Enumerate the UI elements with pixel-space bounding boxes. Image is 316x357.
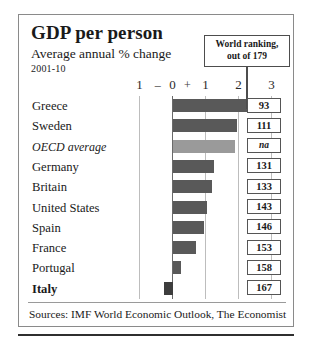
row-label: Portugal	[32, 259, 75, 278]
chart-row: Germany131	[19, 157, 295, 177]
chart-row: Italy167	[19, 279, 295, 299]
bar	[173, 119, 237, 132]
chart-subtitle: Average annual % change	[31, 46, 231, 62]
ranking-badge: 146	[247, 219, 281, 234]
row-label: Greece	[32, 97, 68, 116]
footer-divider	[28, 302, 286, 303]
ranking-badge: 153	[247, 240, 281, 255]
ranking-badge: 133	[247, 179, 281, 194]
chart-row: Greece93	[19, 96, 295, 116]
x-axis-sign-0: –	[155, 78, 161, 92]
chart-row: France153	[19, 238, 295, 258]
row-label: France	[32, 239, 66, 258]
row-label: Germany	[32, 158, 79, 177]
row-label: Sweden	[32, 117, 72, 136]
chart-frame: GDP per person Average annual % change 2…	[18, 14, 294, 327]
bar	[173, 201, 208, 214]
bar	[173, 241, 196, 254]
x-axis-tick-4: 3	[268, 78, 275, 92]
ranking-badge: 158	[247, 260, 281, 275]
bar	[164, 282, 172, 295]
chart-row: United States143	[19, 198, 295, 218]
chart-header: GDP per person Average annual % change 2…	[31, 23, 231, 74]
ranking-badge: 93	[247, 98, 281, 113]
ranking-callout-line2: out of 179	[207, 51, 287, 63]
row-label: OECD average	[32, 138, 106, 157]
bottom-rule	[18, 334, 294, 336]
x-axis: 10123–+	[19, 78, 295, 96]
row-label: United States	[32, 199, 100, 218]
row-label: Britain	[32, 178, 67, 197]
chart-row: Portugal158	[19, 258, 295, 278]
x-axis-tick-3: 2	[235, 78, 242, 92]
ranking-badge: 131	[247, 158, 281, 173]
bar	[173, 180, 213, 193]
x-axis-sign-1: +	[184, 78, 191, 92]
x-axis-tick-1: 0	[169, 78, 176, 92]
page-title: GDP per person	[31, 23, 231, 43]
row-label: Spain	[32, 219, 61, 238]
bar	[173, 261, 181, 274]
source-note: Sources: IMF World Economic Outlook, The…	[29, 306, 286, 322]
bar	[173, 221, 204, 234]
ranking-badge: 111	[247, 118, 281, 133]
chart-row: OECD averagena	[19, 137, 295, 157]
ranking-callout: World ranking, out of 179	[204, 35, 290, 67]
chart-row: Sweden111	[19, 116, 295, 136]
ranking-badge: 167	[247, 280, 281, 295]
chart-row: Spain146	[19, 218, 295, 238]
plot-area: Greece93Sweden111OECD averagenaGermany13…	[19, 96, 295, 299]
bar	[173, 140, 236, 153]
x-axis-tick-2: 1	[202, 78, 209, 92]
ranking-callout-line1: World ranking,	[207, 39, 287, 51]
ranking-badge: 143	[247, 199, 281, 214]
chart-row: Britain133	[19, 177, 295, 197]
chart-period: 2001-10	[31, 63, 231, 74]
bar	[173, 160, 214, 173]
row-label: Italy	[32, 280, 57, 299]
x-axis-tick-0: 1	[136, 78, 143, 92]
ranking-badge: na	[247, 138, 281, 153]
